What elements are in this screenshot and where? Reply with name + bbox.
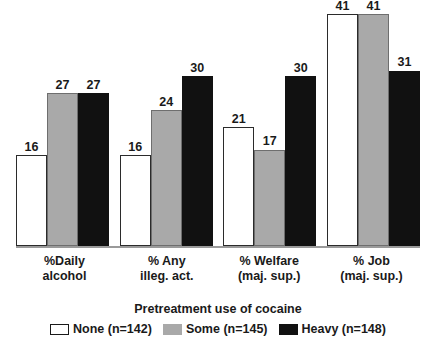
bar-value-label: 30 <box>294 62 308 75</box>
legend-swatch-none <box>50 324 69 335</box>
legend-label-heavy: Heavy (n=148) <box>302 323 386 336</box>
bar-some[interactable]: 27 <box>47 93 78 246</box>
bar-value-label: 17 <box>263 135 277 148</box>
legend-item-heavy[interactable]: Heavy (n=148) <box>279 323 386 336</box>
plot-area: 162727162430211730414131 <box>0 0 436 252</box>
bar-slot: 30 <box>285 10 316 246</box>
bar-value-label: 41 <box>336 0 350 12</box>
category-label-line1: % Job <box>353 254 390 268</box>
bar-value-label: 31 <box>398 56 412 69</box>
bar-slot: 16 <box>16 10 47 246</box>
category-label: % Anyilleg. act. <box>118 254 215 285</box>
legend-label-none: None (n=142) <box>73 323 152 336</box>
bar-slot: 41 <box>358 10 389 246</box>
legend: Pretreatment use of cocaine None (n=142)… <box>0 303 436 335</box>
bar-value-label: 16 <box>25 141 39 154</box>
bar-some[interactable]: 17 <box>254 150 285 246</box>
category-label: % Job(maj. sup.) <box>323 254 420 285</box>
category-label-line2: (maj. sup.) <box>221 269 318 284</box>
category-label-line1: % Welfare <box>239 254 299 268</box>
category-label: % Welfare(maj. sup.) <box>221 254 318 285</box>
bar-value-label: 27 <box>87 79 101 92</box>
legend-title: Pretreatment use of cocaine <box>0 303 436 317</box>
bar-group: 414131 <box>327 10 420 246</box>
legend-swatch-some <box>163 324 182 335</box>
legend-item-some[interactable]: Some (n=145) <box>163 323 268 336</box>
legend-swatch-heavy <box>279 324 298 335</box>
legend-item-none[interactable]: None (n=142) <box>50 323 152 336</box>
bar-group: 211730 <box>223 10 316 246</box>
bar-some[interactable]: 41 <box>358 14 389 246</box>
legend-label-some: Some (n=145) <box>186 323 268 336</box>
bar-none[interactable]: 41 <box>327 14 358 246</box>
bar-slot: 27 <box>78 10 109 246</box>
bar-some[interactable]: 24 <box>151 110 182 246</box>
category-label-line2: alcohol <box>16 269 113 284</box>
bar-slot: 30 <box>182 10 213 246</box>
bar-slot: 41 <box>327 10 358 246</box>
bar-value-label: 24 <box>159 96 173 109</box>
bar-slot: 31 <box>389 10 420 246</box>
category-label: %Dailyalcohol <box>16 254 113 285</box>
bar-slot: 27 <box>47 10 78 246</box>
category-label-line1: %Daily <box>44 254 85 268</box>
bar-value-label: 41 <box>367 0 381 12</box>
bar-value-label: 30 <box>190 62 204 75</box>
bar-groups: 162727162430211730414131 <box>16 10 420 246</box>
bar-slot: 21 <box>223 10 254 246</box>
bar-value-label: 21 <box>232 113 246 126</box>
legend-items: None (n=142)Some (n=145)Heavy (n=148) <box>0 323 436 336</box>
bar-value-label: 16 <box>128 141 142 154</box>
bar-heavy[interactable]: 27 <box>78 93 109 246</box>
category-label-line2: illeg. act. <box>118 269 215 284</box>
category-label-line1: % Any <box>148 254 186 268</box>
bar-group: 162727 <box>16 10 109 246</box>
bar-heavy[interactable]: 30 <box>285 76 316 246</box>
bar-heavy[interactable]: 30 <box>182 76 213 246</box>
bar-value-label: 27 <box>56 79 70 92</box>
bar-slot: 17 <box>254 10 285 246</box>
bar-heavy[interactable]: 31 <box>389 71 420 246</box>
category-labels: %Dailyalcohol% Anyilleg. act.% Welfare(m… <box>16 254 420 285</box>
bar-group: 162430 <box>120 10 213 246</box>
bar-none[interactable]: 16 <box>120 155 151 246</box>
bar-slot: 16 <box>120 10 151 246</box>
bar-slot: 24 <box>151 10 182 246</box>
category-label-line2: (maj. sup.) <box>323 269 420 284</box>
x-axis-line <box>16 246 420 248</box>
bar-chart: 162727162430211730414131 %Dailyalcohol% … <box>0 0 436 343</box>
bar-none[interactable]: 16 <box>16 155 47 246</box>
bar-none[interactable]: 21 <box>223 127 254 246</box>
